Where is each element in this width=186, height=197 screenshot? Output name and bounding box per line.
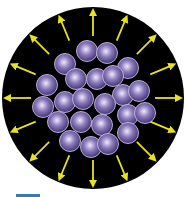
particle-sphere [135, 103, 156, 124]
particle-sphere [71, 112, 92, 133]
particle-sphere [95, 94, 116, 115]
particle-sphere [73, 89, 94, 110]
particle-sphere [97, 43, 118, 64]
particle-sphere [77, 41, 98, 62]
particle-sphere [103, 66, 124, 87]
accent-bar [16, 194, 40, 197]
particle-sphere [66, 69, 87, 90]
particle-sphere [118, 123, 139, 144]
particle-sphere [48, 112, 69, 133]
particle-sphere [60, 131, 81, 152]
particle-sphere [55, 92, 76, 113]
particle-sphere [92, 115, 113, 136]
particle-diagram [0, 0, 186, 197]
particle-sphere [98, 134, 119, 155]
particle-sphere [37, 75, 58, 96]
particle-sphere [129, 81, 150, 102]
